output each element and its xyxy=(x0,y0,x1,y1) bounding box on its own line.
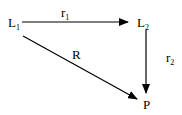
node-p: P xyxy=(143,98,150,111)
edge-r1-subscript: 1 xyxy=(65,13,69,22)
node-l1: L1 xyxy=(8,16,20,29)
node-l1-label: L xyxy=(8,15,16,30)
node-p-label: P xyxy=(143,97,150,112)
edge-r-label: R xyxy=(72,47,81,62)
node-l2-subscript: 2 xyxy=(145,23,149,32)
node-l2: L2 xyxy=(137,16,149,29)
reaction-diagram xyxy=(0,0,182,115)
node-l1-subscript: 1 xyxy=(16,23,20,32)
edge-label-r1: r1 xyxy=(61,6,69,19)
node-l2-label: L xyxy=(137,15,145,30)
edge-label-r: R xyxy=(72,48,81,61)
arrow-l1-to-p xyxy=(23,36,137,99)
edge-r2-subscript: 2 xyxy=(170,58,174,67)
edge-label-r2: r2 xyxy=(166,51,174,64)
